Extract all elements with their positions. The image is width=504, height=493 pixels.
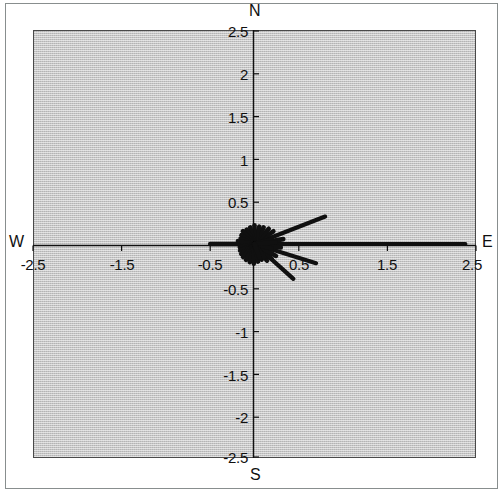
y-tick-label-8: -1.5 bbox=[208, 367, 248, 384]
y-tick-label-4: 1 bbox=[212, 152, 248, 169]
x-tick-label-3: -0.5 bbox=[198, 256, 223, 273]
x-tick-label-1: -2.5 bbox=[21, 256, 46, 273]
x-tick-label-5: 1.5 bbox=[377, 256, 397, 273]
figure-root: -2.5 -1.5 -0.5 0.5 1.5 2.5 2.5 2 1.5 1 0… bbox=[0, 0, 504, 493]
plot-panel-background bbox=[33, 30, 476, 458]
x-tick-label-4: 0.5 bbox=[289, 256, 309, 273]
compass-label-south: S bbox=[250, 466, 261, 484]
compass-label-east: E bbox=[482, 233, 493, 251]
y-tick-label-9: -2 bbox=[208, 409, 248, 426]
y-tick-label-2: 2 bbox=[212, 66, 248, 83]
y-tick-label-10: -2.5 bbox=[208, 449, 248, 466]
x-tick-label-2: -1.5 bbox=[110, 256, 135, 273]
compass-label-north: N bbox=[249, 2, 261, 20]
compass-label-west: W bbox=[9, 233, 24, 251]
y-tick-label-6: -0.5 bbox=[208, 281, 248, 298]
y-tick-label-7: -1 bbox=[208, 324, 248, 341]
y-tick-label-5: 0.5 bbox=[212, 194, 248, 211]
y-tick-label-3: 1.5 bbox=[212, 109, 248, 126]
x-tick-label-6: 2.5 bbox=[462, 256, 482, 273]
y-tick-label-1: 2.5 bbox=[212, 23, 248, 40]
